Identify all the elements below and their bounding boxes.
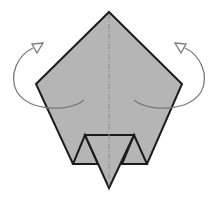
- bottom-flap: [73, 135, 147, 188]
- arrow-left-head-icon: [32, 43, 43, 53]
- arrow-right-head-icon: [175, 43, 186, 53]
- origami-diagram: [0, 0, 215, 202]
